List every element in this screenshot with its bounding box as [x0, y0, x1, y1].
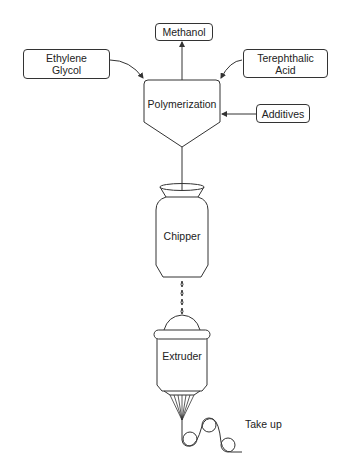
- extruder-label: Extruder: [157, 350, 207, 362]
- methanol-label: Methanol: [162, 26, 205, 38]
- polymerization-label: Polymerization: [144, 98, 220, 110]
- spinneret-filaments: [170, 395, 194, 420]
- arrow-terephthalic-to-polymerization: [221, 60, 242, 78]
- take-up-rollers: [182, 418, 242, 452]
- take-up-label: Take up: [245, 418, 282, 430]
- methanol-box: Methanol: [155, 23, 213, 41]
- terephthalic-acid-label-line1: Terephthalic: [257, 52, 314, 64]
- chipper-label: Chipper: [156, 230, 208, 242]
- ethylene-glycol-label-line2: Glycol: [52, 64, 81, 76]
- chip-drops: [181, 281, 183, 314]
- terephthalic-acid-box: Terephthalic Acid: [243, 49, 328, 78]
- ethylene-glycol-label-line1: Ethylene: [46, 52, 87, 64]
- ethylene-glycol-box: Ethylene Glycol: [23, 49, 110, 79]
- extruder-dome: [164, 315, 200, 330]
- extruder-flange: [154, 330, 210, 339]
- additives-label: Additives: [262, 108, 305, 120]
- spinneret: [164, 391, 200, 395]
- arrow-ethylene-to-polymerization: [110, 60, 143, 78]
- additives-box: Additives: [256, 104, 310, 123]
- polymerization-vessel: [144, 80, 220, 147]
- extruder-body: [157, 339, 207, 391]
- terephthalic-acid-label-line2: Acid: [275, 64, 295, 76]
